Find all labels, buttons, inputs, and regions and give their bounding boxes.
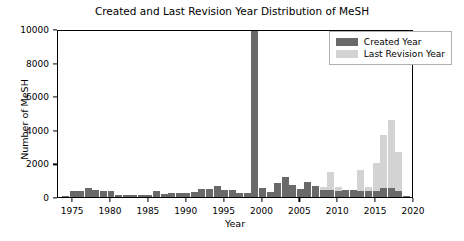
legend-label: Created Year [364,37,422,47]
bar [327,190,334,197]
bar [274,183,281,197]
bar [373,191,380,197]
bar [214,186,221,197]
x-tick-label: 2005 [288,206,311,216]
x-tick-mark [109,198,110,202]
x-tick-mark [337,198,338,202]
bar [100,191,107,197]
bar [92,190,99,197]
bar [123,195,130,197]
bar [282,177,289,197]
bar [304,182,311,197]
legend-item: Last Revision Year [336,48,445,60]
x-tick-label: 2020 [402,206,425,216]
bar [365,191,372,197]
legend-item: Created Year [336,36,445,48]
bar [342,190,349,197]
bar [191,192,198,197]
bar [289,185,296,197]
y-axis-label: Number of MeSH [19,40,30,200]
bar [236,193,243,197]
x-tick-mark [223,198,224,202]
x-tick-label: 2015 [364,206,387,216]
bar [138,195,145,197]
bar [130,195,137,197]
y-tick-label: 2000 [26,159,49,169]
bar [153,191,160,197]
x-tick-mark [375,198,376,202]
y-tick-label: 4000 [26,126,49,136]
y-tick-label: 10000 [20,25,49,35]
x-tick-label: 2010 [326,206,349,216]
y-tick-label: 0 [43,193,49,203]
x-axis-label: Year [57,218,413,229]
chart-title: Created and Last Revision Year Distribut… [0,5,464,17]
x-tick-label: 1975 [61,206,84,216]
x-tick-mark [412,198,413,202]
bar [350,190,357,197]
chart-figure: Created and Last Revision Year Distribut… [0,0,464,241]
bar [251,30,258,197]
bar [229,190,236,197]
x-tick-mark [261,198,262,202]
bar [357,191,364,197]
bar [206,189,213,197]
bar [297,189,304,197]
bar [176,193,183,197]
bar [221,190,228,197]
x-tick-label: 1980 [99,206,122,216]
bar [244,193,251,197]
y-tick-label: 8000 [26,59,49,69]
bar [77,191,84,197]
x-tick-label: 1990 [174,206,197,216]
bar [108,191,115,197]
chart-legend: Created YearLast Revision Year [329,31,452,65]
legend-swatch [336,50,358,58]
bar [85,188,92,197]
bar [115,195,122,197]
y-tick-label: 6000 [26,92,49,102]
bar [267,192,274,197]
x-tick-label: 2000 [250,206,273,216]
x-tick-label: 1995 [212,206,235,216]
bar [335,191,342,197]
bar [259,188,266,197]
bar [320,190,327,197]
x-tick-mark [185,198,186,202]
bar [168,193,175,197]
bar [395,191,402,197]
bar [380,188,387,197]
x-tick-label: 1985 [136,206,159,216]
legend-label: Last Revision Year [364,49,445,59]
bar [161,194,168,197]
bar [403,196,410,197]
bar [145,195,152,197]
bar [70,191,77,197]
x-tick-mark [299,198,300,202]
bar [388,188,395,197]
bar [183,193,190,197]
bar [198,189,205,197]
bar [62,196,69,197]
legend-swatch [336,38,358,46]
bar [312,186,319,197]
x-tick-mark [147,198,148,202]
bar [388,120,395,197]
x-tick-mark [72,198,73,202]
